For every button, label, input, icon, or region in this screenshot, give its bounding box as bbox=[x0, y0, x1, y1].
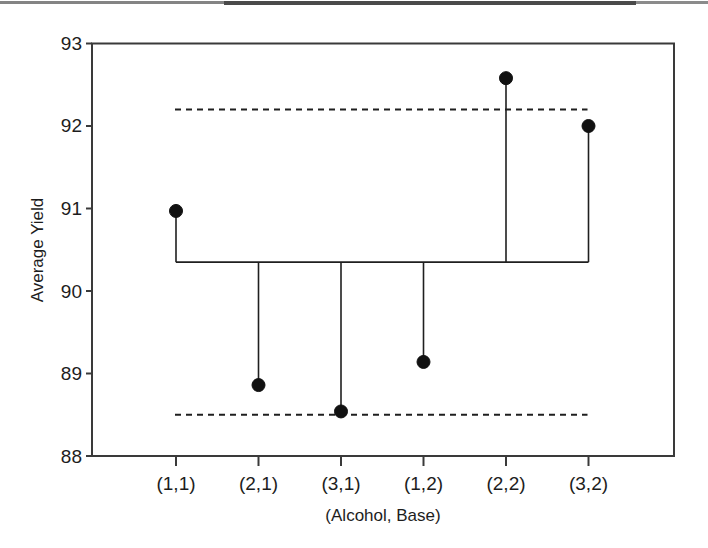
data-point-marker bbox=[417, 355, 430, 368]
x-tick-label-4: (1,2) bbox=[404, 473, 443, 494]
y-tick-label-92: 92 bbox=[61, 115, 82, 136]
data-point-marker bbox=[252, 379, 265, 392]
y-axis-tick-labels: 93 92 91 90 89 88 bbox=[61, 33, 82, 467]
x-axis-title-text: (Alcohol, Base) bbox=[325, 506, 440, 525]
chart-figure: Average Yield 93 92 91 90 89 88 (1,1) (2… bbox=[0, 0, 708, 548]
x-tick-label-2: (2,1) bbox=[239, 473, 278, 494]
y-tick-label-89: 89 bbox=[61, 363, 82, 384]
x-tick-label-1: (1,1) bbox=[156, 473, 195, 494]
plot-frame bbox=[92, 44, 674, 457]
y-axis-title: Average Yield bbox=[28, 198, 47, 303]
y-tick-label-93: 93 bbox=[61, 33, 82, 54]
x-axis-ticks bbox=[176, 456, 589, 466]
data-point-marker bbox=[170, 204, 183, 217]
data-point-marker bbox=[335, 405, 348, 418]
x-tick-label-3: (3,1) bbox=[321, 473, 360, 494]
chart-data-layer bbox=[170, 72, 596, 418]
x-tick-label-6: (3,2) bbox=[569, 473, 608, 494]
y-axis-title-text: Average Yield bbox=[28, 198, 47, 303]
y-tick-label-91: 91 bbox=[61, 198, 82, 219]
x-tick-label-5: (2,2) bbox=[486, 473, 525, 494]
data-point-marker bbox=[500, 72, 513, 85]
x-axis-tick-labels: (1,1) (2,1) (3,1) (1,2) (2,2) (3,2) bbox=[156, 473, 608, 494]
y-tick-label-90: 90 bbox=[61, 281, 82, 302]
data-point-marker bbox=[582, 120, 595, 133]
y-tick-label-88: 88 bbox=[61, 446, 82, 467]
